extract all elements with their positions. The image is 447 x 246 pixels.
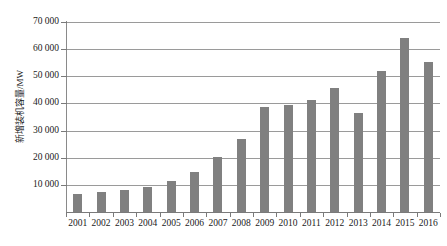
x-axis-tick-mark <box>440 213 441 217</box>
x-axis-tick-mark <box>323 213 324 217</box>
y-axis-tick-mark <box>61 185 67 186</box>
bar <box>330 88 339 212</box>
y-axis-tick-mark <box>61 131 67 132</box>
y-axis-tick-label: 70 000 <box>3 17 59 27</box>
x-axis-tick-mark <box>370 213 371 217</box>
x-axis-tick-mark <box>253 213 254 217</box>
y-axis-tick-mark <box>61 158 67 159</box>
x-axis-tick-mark <box>347 213 348 217</box>
bar <box>284 105 293 212</box>
bar <box>354 113 363 212</box>
bar <box>73 194 82 212</box>
bar-chart: 新增装机容量/MW 10 00020 00030 00040 00050 000… <box>0 0 447 246</box>
y-axis-tick-mark <box>61 103 67 104</box>
bar <box>143 187 152 212</box>
y-axis-tick-label: 50 000 <box>3 71 59 81</box>
bar <box>213 157 222 212</box>
x-axis-tick-mark <box>136 213 137 217</box>
bar <box>400 38 409 212</box>
y-axis-tick-label: 60 000 <box>3 44 59 54</box>
x-axis-tick-mark <box>276 213 277 217</box>
x-axis-tick-mark <box>66 213 67 217</box>
y-axis-tick-label: 10 000 <box>3 180 59 190</box>
y-axis-tick-label: 40 000 <box>3 98 59 108</box>
x-axis-tick-mark <box>113 213 114 217</box>
gridline <box>66 49 440 50</box>
plot-area <box>66 22 440 212</box>
bar <box>120 190 129 212</box>
x-axis-tick-mark <box>300 213 301 217</box>
x-axis-tick-mark <box>89 213 90 217</box>
y-axis-tick-label: 20 000 <box>3 153 59 163</box>
gridline <box>66 22 440 23</box>
x-axis-tick-mark <box>417 213 418 217</box>
bar <box>237 139 246 212</box>
bar <box>167 181 176 212</box>
x-axis-tick-mark <box>206 213 207 217</box>
y-axis-tick-labels: 10 00020 00030 00040 00050 00060 00070 0… <box>0 0 59 246</box>
y-axis-tick-mark <box>61 76 67 77</box>
bar <box>190 172 199 212</box>
bar <box>377 71 386 212</box>
x-axis-tick-mark <box>160 213 161 217</box>
y-axis-tick-mark <box>61 49 67 50</box>
bar <box>424 62 433 212</box>
x-axis-tick-mark <box>183 213 184 217</box>
y-axis-tick-mark <box>61 22 67 23</box>
x-axis-tick-mark <box>230 213 231 217</box>
y-axis-tick-label: 30 000 <box>3 126 59 136</box>
x-axis-tick-mark <box>393 213 394 217</box>
bar <box>307 100 316 212</box>
bar <box>260 107 269 212</box>
x-axis-tick-label: 2016 <box>413 219 443 229</box>
bar <box>97 192 106 212</box>
